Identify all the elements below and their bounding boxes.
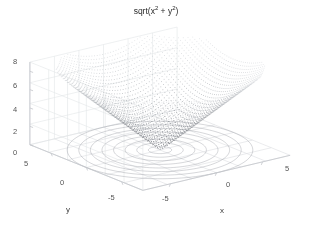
y-tick-label-0: 0 [60, 179, 64, 187]
y-tick-label-neg5: -5 [108, 194, 115, 202]
z-tick-label-6: 6 [13, 82, 17, 90]
title-prefix: sqrt(x [134, 6, 155, 16]
z-tick-label-0: 0 [13, 149, 17, 157]
surface-plot-canvas [0, 0, 312, 230]
z-tick-label-8: 8 [13, 58, 17, 66]
title-middle: + y [158, 6, 172, 16]
y-tick-label-5: 5 [24, 160, 28, 168]
x-axis-title: x [220, 207, 224, 215]
page-title: sqrt(x2 + y2) [0, 7, 312, 16]
y-axis-title: y [66, 206, 70, 214]
x-tick-label-neg5: -5 [162, 195, 169, 203]
title-suffix: ) [176, 6, 179, 16]
x-tick-label-0: 0 [226, 181, 230, 189]
figure-3d-surface-plot: sqrt(x2 + y2) 8 6 4 2 0 5 0 -5 -5 0 5 y … [0, 0, 312, 230]
x-tick-label-5: 5 [285, 165, 289, 173]
z-tick-label-2: 2 [13, 128, 17, 136]
z-tick-label-4: 4 [13, 106, 17, 114]
